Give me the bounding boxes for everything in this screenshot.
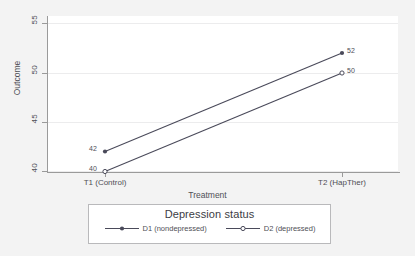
x-axis-line: [47, 172, 400, 173]
legend-swatch-d2-open-circle-icon: [225, 224, 261, 233]
legend-entry-d2[interactable]: D2 (depressed): [225, 224, 316, 233]
y-axis-title: Outcome: [12, 61, 22, 96]
plot-area: [47, 16, 398, 172]
legend-label-d1: D1 (nondepressed): [143, 224, 207, 233]
gridline-55: [47, 23, 398, 24]
chart-figure: 55 50 45 40 Outcome T1 (Control) T2 (Hap…: [0, 0, 415, 256]
point-label-d2-t2: 50: [347, 67, 355, 74]
point-label-d2-t1: 40: [89, 165, 97, 172]
legend: Depression status D1 (nondepressed) D2 (…: [88, 204, 331, 244]
y-tick-mark-50: [42, 73, 47, 74]
gridline-45: [47, 122, 398, 123]
y-tick-label-45: 45: [30, 114, 39, 124]
y-tick-label-55: 55: [30, 15, 39, 25]
y-tick-mark-45: [42, 122, 47, 123]
legend-entries: D1 (nondepressed) D2 (depressed): [89, 224, 330, 233]
legend-label-d2: D2 (depressed): [264, 224, 316, 233]
point-label-d1-t1: 42: [89, 145, 97, 152]
legend-swatch-d1-filled-circle-icon: [104, 224, 140, 233]
y-tick-mark-40: [42, 171, 47, 172]
y-axis-line: [47, 16, 48, 173]
legend-title: Depression status: [89, 208, 330, 220]
x-axis-title: Treatment: [0, 190, 415, 200]
y-tick-mark-55: [42, 23, 47, 24]
legend-entry-d1[interactable]: D1 (nondepressed): [104, 224, 207, 233]
x-tick-mark-t1: [105, 173, 106, 177]
x-tick-label-t1: T1 (Control): [84, 178, 127, 187]
y-tick-label-40: 40: [30, 163, 39, 173]
gridline-50: [47, 73, 398, 74]
point-label-d1-t2: 52: [347, 47, 355, 54]
x-tick-mark-t2: [342, 173, 343, 177]
y-tick-label-50: 50: [30, 65, 39, 75]
x-tick-label-t2: T2 (HapTher): [318, 178, 366, 187]
